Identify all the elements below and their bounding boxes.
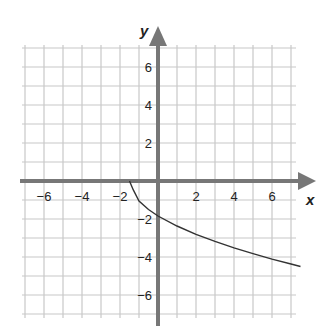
y-tick-label: 2 bbox=[145, 136, 152, 151]
x-axis-label: x bbox=[305, 191, 315, 208]
y-axis-label: y bbox=[139, 22, 149, 39]
x-tick-label: −2 bbox=[113, 189, 128, 204]
x-tick-label: 2 bbox=[192, 189, 199, 204]
x-tick-label: 6 bbox=[268, 189, 275, 204]
coordinate-plane: −6−4−2246642−2−4−6 x y bbox=[0, 0, 326, 326]
y-tick-label: −6 bbox=[137, 288, 152, 303]
y-tick-label: −4 bbox=[137, 250, 152, 265]
y-tick-label: −2 bbox=[137, 212, 152, 227]
x-tick-label: −6 bbox=[37, 189, 52, 204]
x-tick-label: 4 bbox=[230, 189, 237, 204]
y-axis-arrow-icon bbox=[149, 26, 167, 46]
y-tick-label: 6 bbox=[145, 60, 152, 75]
x-axis-arrow-icon bbox=[298, 172, 316, 190]
y-tick-label: 4 bbox=[145, 98, 152, 113]
x-tick-label: −4 bbox=[75, 189, 90, 204]
